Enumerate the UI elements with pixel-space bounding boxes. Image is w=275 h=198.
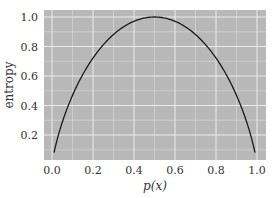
x-tick-label: 0.6 bbox=[166, 164, 184, 177]
y-tick-label: 0.4 bbox=[21, 100, 39, 113]
y-tick-label: 0.2 bbox=[21, 129, 39, 142]
y-axis-label: entropy bbox=[2, 61, 16, 108]
x-axis-label: p(x) bbox=[143, 179, 167, 193]
entropy-chart: 0.00.20.40.60.81.0 0.20.40.60.81.0 p(x) … bbox=[0, 0, 275, 198]
y-axis-ticks: 0.20.40.60.81.0 bbox=[21, 11, 39, 142]
x-tick-label: 1.0 bbox=[248, 164, 266, 177]
x-tick-label: 0.0 bbox=[43, 164, 61, 177]
x-axis-ticks: 0.00.20.40.60.81.0 bbox=[43, 164, 266, 177]
y-tick-label: 1.0 bbox=[21, 11, 39, 24]
y-tick-label: 0.6 bbox=[21, 70, 39, 83]
x-tick-label: 0.4 bbox=[125, 164, 143, 177]
y-tick-label: 0.8 bbox=[21, 41, 39, 54]
x-tick-label: 0.2 bbox=[84, 164, 102, 177]
x-tick-label: 0.8 bbox=[207, 164, 225, 177]
